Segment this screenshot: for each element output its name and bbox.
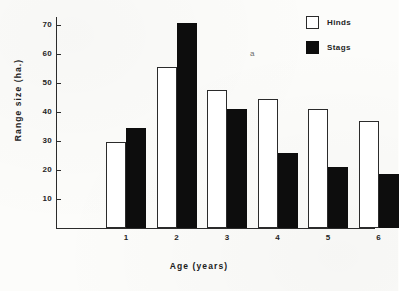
legend-item-stags: Stags [306,41,351,54]
x-axis-tick-label: 1 [106,233,146,242]
bar-stags-age-3 [227,109,247,228]
bar-stags-age-1 [126,128,146,228]
bar-stags-age-4 [278,153,298,228]
bar-stags-age-2 [177,23,197,228]
panel-label-annotation: a [250,49,254,58]
x-axis-tick-label: 3 [207,233,247,242]
bar-hinds-age-1 [106,142,126,228]
x-axis-tick-label: 2 [157,233,197,242]
legend-swatch-open-square-icon [306,16,319,29]
x-axis-tick-label: 6 [359,233,399,242]
bar-stags-age-6 [379,174,399,228]
legend-label-stags: Stags [327,43,351,52]
bar-hinds-age-6 [359,121,379,228]
y-axis-title: Range size (ha.) [13,30,23,170]
legend: Hinds Stags [306,16,351,66]
bar-hinds-age-2 [157,67,177,228]
bar-hinds-age-4 [258,99,278,228]
x-axis-tick-label: 5 [308,233,348,242]
legend-swatch-filled-square-icon [306,41,319,54]
bar-hinds-age-3 [207,90,227,228]
bar-hinds-age-5 [308,109,328,228]
legend-label-hinds: Hinds [327,18,351,27]
x-axis-tick-label: 4 [258,233,298,242]
y-axis-tick-label: 10 [12,194,52,203]
y-axis-tick-label: 70 [12,20,52,29]
x-axis-line [56,228,375,229]
bar-stags-age-5 [328,167,348,228]
legend-item-hinds: Hinds [306,16,351,29]
x-axis-title: Age (years) [0,261,398,271]
